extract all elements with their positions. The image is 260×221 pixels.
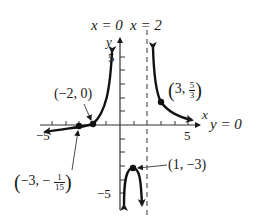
point-3-5over3 [158,99,164,105]
point-neg2-0 [90,121,96,127]
pt3-prefix: 3, [175,81,186,96]
frac-den: 15 [54,183,65,192]
ptneg3-prefix: −3, − [21,173,51,188]
point-neg3 [76,123,82,129]
leader-1-neg3 [138,165,167,168]
label-asymptote-y0: y = 0 [210,117,242,132]
leader-neg2-0 [84,104,91,120]
curve-middle-branch [124,168,142,205]
asym-y0-text: y = 0 [210,116,242,132]
frac-num: 1 [54,173,65,183]
label-asymptote-x2: x = 2 [130,18,162,33]
label-axis-x: x [202,108,208,121]
label-tick-x-pos5: 5 [184,129,191,142]
label-tick-x-neg5: −5 [36,129,50,142]
label-point-3-5over3: (3, 53) [168,80,202,100]
fraction-1over15: 115 [54,173,65,192]
leader-neg3 [72,131,78,170]
label-point-neg2-0: (−2, 0) [54,87,92,101]
label-axis-y: y [106,35,112,48]
label-point-1-neg3: (1, −3) [168,158,206,172]
asym-x0-text: x = 0 [91,17,123,33]
asym-x2-text: x = 2 [130,17,162,33]
label-point-neg3: (−3, − 115) [14,172,72,192]
point-1-neg3 [130,165,136,171]
label-tick-y-pos5: 5 [108,51,115,64]
label-asymptote-x0: x = 0 [91,18,123,33]
label-tick-y-neg5: −5 [97,187,111,200]
